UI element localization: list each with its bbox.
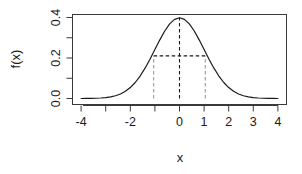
y-axis-title: f(x) bbox=[8, 50, 23, 69]
x-tick-label: 2 bbox=[225, 115, 232, 129]
x-tick-label: 4 bbox=[274, 115, 281, 129]
x-tick-label: 1 bbox=[201, 115, 208, 129]
x-axis-title: x bbox=[177, 150, 184, 165]
x-tick-label: -4 bbox=[76, 115, 87, 129]
y-tick-label: 0.4 bbox=[49, 9, 63, 26]
x-tick-label: 0 bbox=[176, 115, 183, 129]
y-tick-label: 0.0 bbox=[49, 90, 63, 107]
plot-background bbox=[0, 0, 302, 174]
y-tick-label: 0.2 bbox=[49, 49, 63, 66]
y-tick-labels: 0.00.20.4 bbox=[49, 9, 63, 107]
figure-canvas: 0.00.20.4 -4-201234 f(x) x bbox=[0, 0, 302, 174]
normal-density-plot: 0.00.20.4 -4-201234 f(x) x bbox=[0, 0, 302, 174]
x-tick-label: 3 bbox=[250, 115, 257, 129]
x-tick-label: -2 bbox=[125, 115, 136, 129]
